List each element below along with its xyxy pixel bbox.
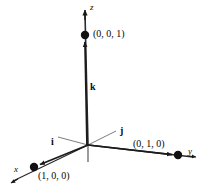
- point-dot-0-0-1: [81, 31, 89, 39]
- y-axis-negative-line: [58, 137, 88, 145]
- vector-diagram-canvas: z y x i j k (0, 0, 1) (0, 1, 0) (1, 0, 0…: [0, 0, 206, 191]
- j-vector-label: j: [120, 126, 123, 136]
- y-axis-label: y: [188, 147, 192, 156]
- point-dot-0-1-0: [174, 151, 182, 159]
- point-label-1-0-0: (1, 0, 0): [38, 171, 70, 181]
- i-vector-arrow: [40, 145, 88, 165]
- k-vector-label: k: [90, 82, 96, 92]
- x-axis-label: x: [14, 165, 18, 174]
- x-axis-negative-line: [88, 131, 116, 145]
- point-dot-1-0-0: [30, 163, 38, 171]
- z-axis-label: z: [90, 3, 94, 12]
- i-vector-label: i: [51, 137, 54, 147]
- point-label-0-0-1: (0, 0, 1): [93, 29, 125, 39]
- point-label-0-1-0: (0, 1, 0): [133, 139, 165, 149]
- x-axis-arrow-tip: [11, 179, 18, 183]
